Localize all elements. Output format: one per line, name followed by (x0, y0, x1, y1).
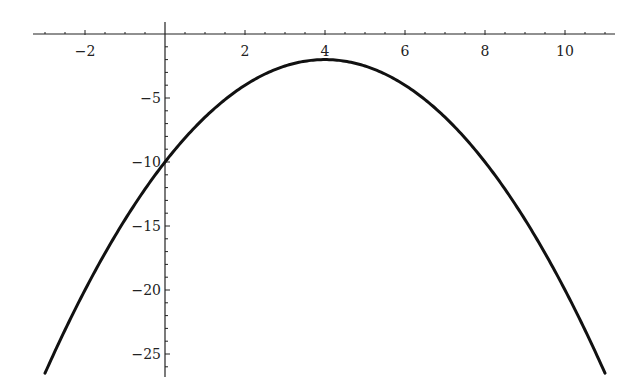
x-tick-label: 10 (556, 43, 574, 59)
y-tick-label: −10 (131, 154, 161, 170)
y-tick-label: −15 (131, 218, 161, 234)
y-tick-label: −5 (140, 90, 161, 106)
y-tick-label: −25 (131, 346, 161, 362)
x-tick-label: 6 (401, 43, 410, 59)
y-tick-label: −20 (131, 282, 161, 298)
x-tick-label: 4 (321, 43, 330, 59)
x-tick-label: −2 (75, 43, 96, 59)
x-tick-label: 2 (241, 43, 250, 59)
parabola-curve (45, 60, 605, 374)
axes: −2246810−5−10−15−20−25 (33, 22, 615, 377)
curve-layer (45, 60, 605, 374)
plot-area: −2246810−5−10−15−20−25 (0, 0, 644, 387)
x-tick-label: 8 (481, 43, 490, 59)
